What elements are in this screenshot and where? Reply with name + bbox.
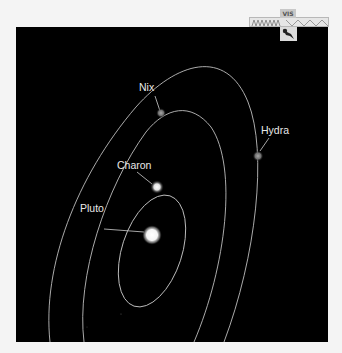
hydra-label: Hydra — [261, 124, 289, 136]
charon-orbit — [106, 187, 199, 316]
pluto-label: Pluto — [80, 202, 104, 214]
charon-moon — [150, 180, 164, 194]
star-dot — [120, 313, 121, 314]
star-dot — [87, 327, 88, 328]
spacecraft-icon — [280, 27, 297, 41]
hydra-leader — [260, 138, 269, 151]
nix-moon — [156, 108, 166, 118]
charon-label: Charon — [117, 159, 151, 171]
hydra-moon — [253, 151, 264, 162]
nix-label: Nix — [139, 81, 154, 93]
orbit-diagram — [16, 27, 328, 342]
charon-leader — [137, 172, 152, 184]
diagram-panel: Nix Hydra Charon Pluto — [16, 27, 328, 342]
pluto-planet — [142, 225, 162, 245]
vis-tag: VIS — [280, 9, 296, 18]
pluto-leader — [104, 229, 144, 232]
scale-strip — [249, 17, 329, 27]
